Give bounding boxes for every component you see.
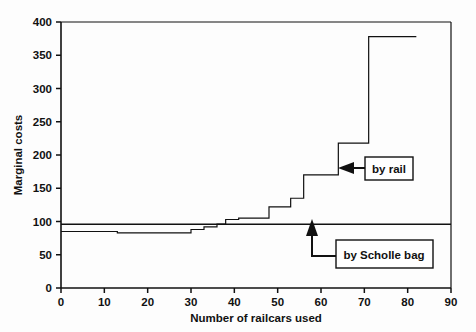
x-tick-label: 50 [271,296,284,308]
y-tick-label: 250 [33,116,52,128]
by-rail-annotation: by rail [338,157,413,180]
x-tick-label: 80 [401,296,414,308]
y-tick-label: 50 [39,249,52,261]
x-tick-label: 30 [185,296,198,308]
x-tick-label: 0 [58,296,64,308]
x-tick-label: 90 [445,296,458,308]
rail-series-step-line [61,37,416,233]
x-tick-label: 70 [358,296,371,308]
y-axis-title: Marginal costs [12,115,24,196]
by-rail-arrow-head [338,162,354,174]
by-scholle-bag-annotation: by Scholle bag [306,219,433,268]
x-tick-label: 20 [141,296,154,308]
y-tick-label: 400 [33,16,52,28]
y-tick-label: 300 [33,83,52,95]
x-tick-label: 10 [98,296,111,308]
y-tick-label: 350 [33,49,52,61]
marginal-costs-step-chart: 050100150200250300350400 010203040506070… [0,0,476,332]
by-rail-label-text: by rail [372,163,406,175]
y-tick-label: 100 [33,216,52,228]
y-axis-tick-labels: 050100150200250300350400 [33,16,52,294]
by-scholle-bag-leader-line [312,234,336,256]
by-scholle-bag-arrow-head [306,219,318,236]
chart-figure: 050100150200250300350400 010203040506070… [0,0,476,332]
by-scholle-bag-label-text: by Scholle bag [343,249,424,261]
x-axis-tick-labels: 0102030405060708090 [58,296,458,308]
y-tick-label: 150 [33,182,52,194]
y-tick-label: 200 [33,149,52,161]
x-tick-label: 40 [228,296,241,308]
x-tick-label: 60 [315,296,328,308]
x-axis-title: Number of railcars used [190,312,322,324]
y-tick-label: 0 [46,282,52,294]
